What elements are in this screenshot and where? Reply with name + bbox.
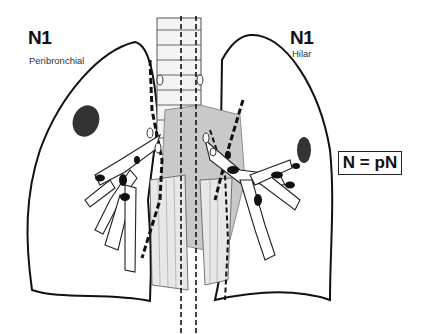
- tumor-left: [68, 102, 103, 141]
- right-n1-subtitle: Hilar: [292, 48, 312, 59]
- tumor-right: [297, 137, 311, 163]
- left-lung-outline: [27, 42, 158, 301]
- legend-box: N = pN: [338, 151, 402, 175]
- left-n1-subtitle: Peribronchial: [29, 55, 84, 66]
- left-n1-title: N1: [28, 27, 51, 49]
- right-n1-title: N1: [290, 27, 313, 49]
